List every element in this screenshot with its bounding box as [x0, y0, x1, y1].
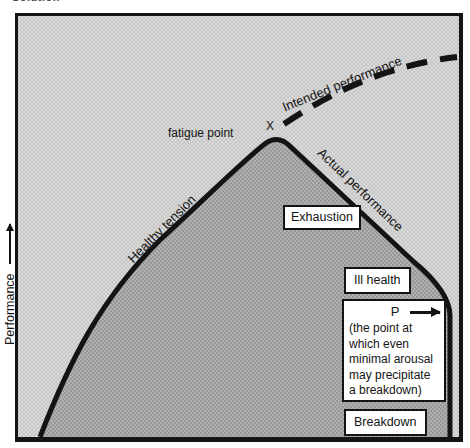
y-axis-label: Performance — [3, 215, 17, 345]
y-axis-label-text: Performance — [3, 273, 17, 345]
right-arrow-icon — [410, 311, 440, 314]
p-note: (the point at which even minimal arousal… — [349, 321, 441, 399]
p-note-line: may precipitate — [349, 368, 441, 384]
ill-health-box: Ill health — [344, 267, 411, 294]
breakdown-box: Breakdown — [344, 409, 427, 436]
fatigue-point-x-marker: X — [266, 119, 274, 133]
exhaustion-box: Exhaustion — [283, 205, 361, 230]
p-note-line: minimal arousal — [349, 352, 441, 368]
p-note-line: which even — [349, 337, 441, 353]
fatigue-point-label: fatigue point — [168, 126, 233, 140]
p-point-box: P (the point at which even minimal arous… — [342, 299, 446, 402]
figure-human-function-curve: Solution Performance Intended performanc… — [0, 0, 470, 448]
p-note-line: (the point at — [349, 321, 441, 337]
p-note-line: a breakdown) — [349, 383, 441, 399]
up-arrow-icon — [9, 224, 11, 264]
